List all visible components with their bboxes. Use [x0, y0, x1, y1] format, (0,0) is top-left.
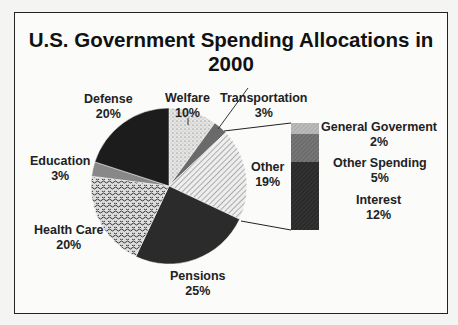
- label-welfare: Welfare10%: [165, 91, 210, 120]
- label-other: Other19%: [251, 160, 284, 189]
- label-transportation: Transportation3%: [220, 91, 308, 120]
- breakdown-connector-top: [224, 123, 291, 131]
- label-health-care: Health Care20%: [34, 223, 103, 252]
- label-pensions: Pensions25%: [170, 269, 226, 298]
- label-education: Education3%: [30, 154, 90, 183]
- breakdown-bar: [291, 123, 319, 230]
- label-general-goverment: General Goverment2%: [321, 120, 437, 149]
- label-defense: Defense20%: [84, 92, 133, 121]
- breakdown-connector-bottom: [241, 221, 291, 230]
- label-other-spending: Other Spending5%: [333, 156, 427, 185]
- label-interest: Interest12%: [356, 193, 401, 222]
